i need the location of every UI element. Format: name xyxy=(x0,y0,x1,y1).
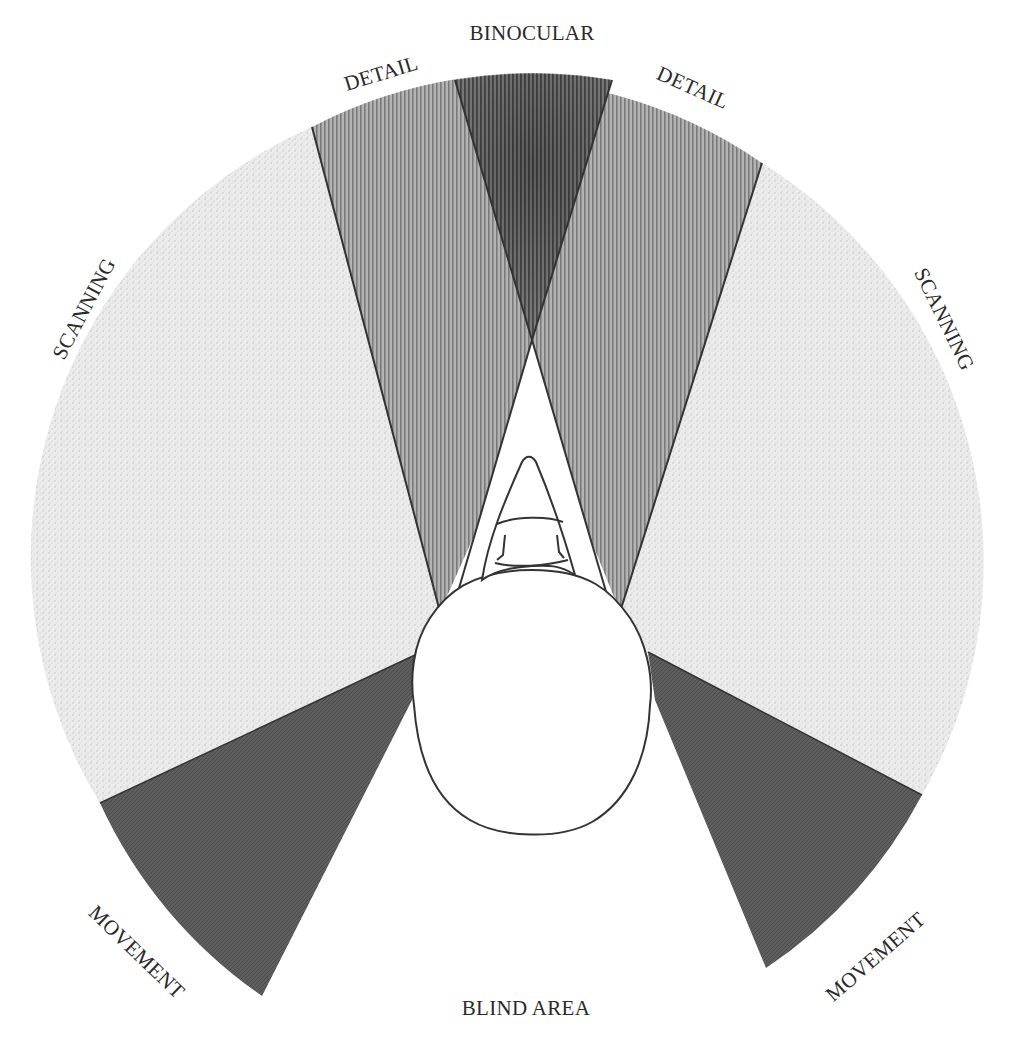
label-blind-area: BLIND AREA xyxy=(462,996,591,1020)
label-detail-right: DETAIL xyxy=(653,61,732,114)
label-movement-right: MOVEMENT xyxy=(821,907,930,1006)
label-binocular: BINOCULAR xyxy=(469,21,594,45)
visual-field-diagram: BINOCULAR DETAIL DETAIL SCANNING SCANNIN… xyxy=(0,0,1024,1047)
label-detail-left: DETAIL xyxy=(341,51,421,96)
